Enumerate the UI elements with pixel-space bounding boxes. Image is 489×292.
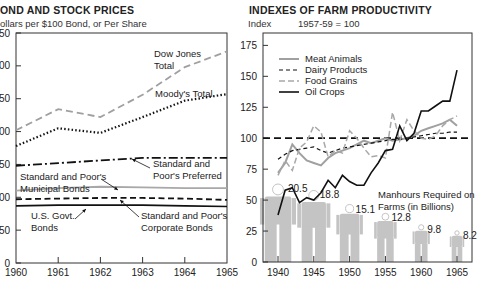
manhours-label: Manhours Required on — [378, 189, 475, 200]
left-ytick-label: 50 — [0, 28, 10, 39]
series-annotation: Standard and — [153, 158, 210, 169]
left-ytick-label: 00 — [0, 126, 10, 137]
left-xtick-label: 1961 — [47, 267, 70, 278]
series-annotation: Total — [154, 60, 174, 71]
series-standard-and-poor-s-corporate-bonds — [16, 198, 227, 200]
series-annotation: U.S. Govt. — [31, 210, 75, 221]
series-annotation: Dow Jones — [154, 48, 201, 59]
series-annotation: Moody's Total — [155, 88, 213, 99]
right-ytick-label: 0 — [251, 257, 257, 268]
series-annotation: Bonds — [31, 222, 58, 233]
left-ytick-label: 00 — [0, 192, 10, 203]
farmer-figure-icon — [260, 184, 296, 262]
left-ytick-label: 50 — [0, 93, 10, 104]
right-xtick-label: 1955 — [374, 267, 397, 278]
left-ytick-label: 00 — [0, 60, 10, 71]
left-xtick-label: 1962 — [89, 267, 112, 278]
series-moody-s-total — [16, 94, 227, 146]
right-ytick-label: 125 — [240, 102, 257, 113]
right-xtick-label: 1950 — [338, 267, 361, 278]
series-dairy-products — [278, 132, 457, 159]
series-u-s-govt-bonds — [16, 205, 227, 206]
right-ytick-label: 50 — [246, 195, 258, 206]
legend-label: Oil Crops — [305, 86, 345, 97]
legend-label: Food Grains — [305, 75, 358, 86]
manhours-value: 8.2 — [463, 230, 477, 241]
legend-label: Meat Animals — [305, 53, 362, 64]
right-xtick-label: 1965 — [446, 267, 469, 278]
left-xtick-label: 1963 — [131, 267, 154, 278]
right-xtick-label: 1945 — [303, 267, 326, 278]
series-annotation: Poor's Preferred — [153, 170, 222, 181]
series-annotation: Municipal Bonds — [20, 183, 90, 194]
left-xtick-label: 1965 — [216, 267, 239, 278]
bond-stock-prices-chart: 050005000500050196019611962196319641965D… — [0, 28, 239, 279]
right-ytick-label: 100 — [240, 133, 257, 144]
manhours-value: 9.8 — [427, 224, 441, 235]
series-meat-animals — [278, 120, 457, 173]
manhours-value: 15.1 — [356, 204, 376, 215]
manhours-label: Farms (in Billions) — [378, 201, 454, 212]
right-ytick-label: 25 — [246, 226, 258, 237]
series-annotation: Standard and Poor's — [141, 210, 228, 221]
legend: Meat AnimalsDairy ProductsFood GrainsOil… — [279, 53, 368, 97]
left-ytick-label: 50 — [0, 225, 10, 236]
right-xtick-label: 1960 — [410, 267, 433, 278]
charts-canvas: 050005000500050196019611962196319641965D… — [0, 0, 489, 292]
right-ytick-label: 75 — [246, 164, 258, 175]
right-xtick-label: 1940 — [267, 267, 290, 278]
series-annotation: Corporate Bonds — [141, 222, 213, 233]
left-ytick-label: 50 — [0, 159, 10, 170]
manhours-value: 12.8 — [391, 212, 411, 223]
left-xtick-label: 1964 — [174, 267, 197, 278]
right-ytick-label: 175 — [240, 40, 257, 51]
series-annotation: Standard and Poor's — [20, 171, 107, 182]
left-xtick-label: 1960 — [5, 267, 28, 278]
legend-label: Dairy Products — [305, 64, 368, 75]
farm-productivity-chart: 20.518.815.112.89.88.2Manhours Required … — [240, 33, 477, 278]
right-ytick-label: 150 — [240, 71, 257, 82]
